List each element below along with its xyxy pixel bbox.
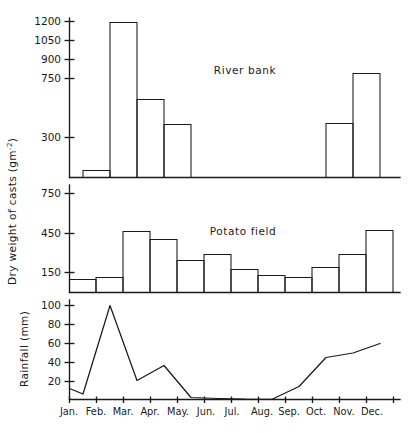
bot-tick-label-40: 40 — [48, 356, 61, 368]
month-label-feb: Feb. — [86, 406, 106, 417]
bar-jan — [70, 280, 97, 293]
top-bars — [83, 23, 380, 178]
bar-oct — [312, 268, 339, 293]
bar-mar — [110, 23, 137, 178]
panel-river-bank: 1200 1050 900 750 300 River bank — [34, 15, 400, 178]
month-label-dec: Dec. — [361, 406, 383, 417]
panel-title-river-bank: River bank — [214, 64, 277, 76]
bar-mar — [123, 232, 150, 293]
multi-panel-chart: Dry weight of casts (gm-2) 1200 1050 900 — [0, 0, 411, 433]
mid-bars — [70, 231, 394, 293]
top-tick-label-750: 750 — [41, 72, 61, 84]
bar-dec — [366, 231, 393, 293]
bot-tick-labels: 100 80 60 40 20 — [41, 299, 61, 387]
bar-sep — [285, 278, 312, 293]
y-axis-title: Dry weight of casts (gm-2) — [6, 138, 18, 285]
rainfall-axis-title: Rainfall (mm) — [18, 311, 30, 387]
month-label-may: May. — [167, 406, 189, 417]
y-axis-title-superscript: -2 — [6, 142, 14, 150]
bar-may — [164, 125, 191, 178]
y-axis-title-main: Dry weight of casts (gm — [6, 150, 18, 285]
top-tick-label-1200: 1200 — [34, 15, 61, 27]
panel-potato-field: 750 450 150 Potato field — [41, 185, 400, 293]
bar-feb — [83, 171, 110, 178]
bot-tick-label-80: 80 — [48, 318, 61, 330]
month-label-oct: Oct. — [306, 406, 326, 417]
svg-text:Dry weight of casts (gm-2): Dry weight of casts (gm-2) — [6, 138, 18, 285]
month-label-jul: Jul. — [224, 406, 240, 417]
mid-tick-labels: 750 450 150 — [41, 187, 61, 278]
month-label-apr: Apr. — [140, 406, 159, 417]
top-tick-label-300: 300 — [41, 131, 61, 143]
bar-apr — [150, 240, 177, 293]
bot-tick-label-100: 100 — [41, 299, 61, 311]
month-label-mar: Mar. — [113, 406, 134, 417]
x-axis-month-labels: Jan. Feb. Mar. Apr. May. Jun. Jul. Aug. … — [59, 406, 383, 417]
month-label-jan: Jan. — [59, 406, 78, 417]
y-axis-title-tail: ) — [6, 138, 18, 143]
bar-dec — [353, 74, 380, 178]
bar-may — [177, 261, 204, 293]
rainfall-series-line — [70, 306, 381, 400]
figure-root: Dry weight of casts (gm-2) 1200 1050 900 — [0, 0, 411, 433]
mid-tick-label-450: 450 — [41, 227, 61, 239]
top-tick-label-900: 900 — [41, 53, 61, 65]
bar-nov — [339, 255, 366, 293]
bar-feb — [96, 278, 123, 293]
top-tick-label-1050: 1050 — [34, 34, 61, 46]
bar-nov — [326, 124, 353, 178]
month-label-jun: Jun. — [196, 406, 215, 417]
month-label-nov: Nov. — [333, 406, 354, 417]
mid-tick-label-150: 150 — [41, 266, 61, 278]
panel-rainfall: 100 80 60 40 20 — [18, 299, 400, 403]
bar-jun — [204, 255, 231, 293]
bar-jul — [231, 270, 258, 293]
bar-aug — [258, 276, 285, 293]
month-label-aug: Aug. — [251, 406, 273, 417]
bar-apr — [137, 100, 164, 178]
bot-tick-label-60: 60 — [48, 337, 61, 349]
panel-title-potato-field: Potato field — [210, 225, 277, 237]
mid-tick-label-750: 750 — [41, 187, 61, 199]
month-label-sep: Sep. — [278, 406, 300, 417]
top-tick-labels: 1200 1050 900 750 300 — [34, 15, 61, 143]
bot-tick-label-20: 20 — [48, 375, 61, 387]
